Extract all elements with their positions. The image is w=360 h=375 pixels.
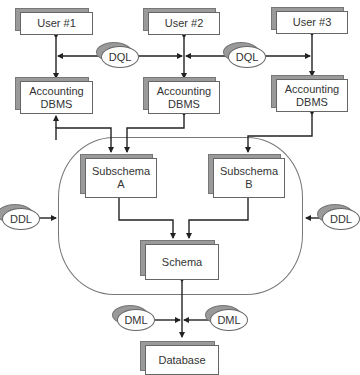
dql-right-oval: DQL [228, 46, 266, 68]
accounting-dbms-3-label: Accounting DBMS [285, 83, 339, 109]
subschema-a-box: Subschema A [85, 158, 157, 198]
schema-label: Schema [162, 256, 202, 269]
dql-right-label: DQL [236, 51, 259, 63]
accounting-dbms-2-label: Accounting DBMS [157, 85, 211, 111]
user-2-box: User #2 [148, 12, 220, 35]
schema-box: Schema [145, 244, 219, 280]
database-box: Database [145, 345, 219, 375]
dml-left-label: DML [124, 314, 147, 326]
user-3-box: User #3 [276, 11, 348, 34]
ddl-left-label: DDL [10, 213, 32, 225]
ddl-right-label: DDL [330, 213, 352, 225]
subschema-b-label: Subschema B [220, 165, 278, 191]
dql-left-label: DQL [109, 51, 132, 63]
database-label: Database [158, 354, 205, 367]
accounting-dbms-2-box: Accounting DBMS [148, 81, 220, 114]
accounting-dbms-3-box: Accounting DBMS [276, 79, 348, 112]
ddl-left-oval: DDL [2, 208, 40, 230]
subschema-a-label: Subschema A [92, 165, 150, 191]
user-2-label: User #2 [165, 17, 204, 30]
user-3-label: User #3 [293, 16, 332, 29]
user-1-box: User #1 [20, 12, 93, 35]
dql-left-oval: DQL [101, 46, 139, 68]
user-1-label: User #1 [37, 17, 76, 30]
ddl-right-oval: DDL [322, 208, 360, 230]
subschema-b-box: Subschema B [213, 158, 285, 198]
accounting-dbms-1-box: Accounting DBMS [20, 81, 93, 114]
dml-right-oval: DML [210, 309, 248, 331]
dml-left-oval: DML [117, 309, 155, 331]
dml-right-label: DML [217, 314, 240, 326]
accounting-dbms-1-label: Accounting DBMS [29, 85, 83, 111]
